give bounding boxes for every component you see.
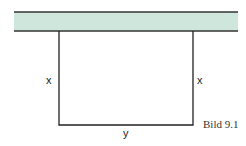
wall-band: [14, 12, 238, 31]
figure-caption: Bild 9.1: [203, 118, 238, 130]
fence-rectangle: [59, 31, 193, 125]
right-side-label: x: [197, 74, 203, 86]
fence-diagram: x x y Bild 9.1: [0, 0, 246, 146]
bottom-side-label: y: [123, 127, 129, 139]
left-side-label: x: [46, 74, 52, 86]
